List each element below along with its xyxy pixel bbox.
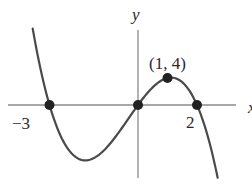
tick-label-neg3: −3 bbox=[12, 114, 30, 133]
root-point-2 bbox=[192, 100, 202, 110]
tick-label-2: 2 bbox=[186, 113, 195, 132]
max-point-1-4 bbox=[163, 73, 173, 83]
cubic-function-graph: y x −3 2 (1, 4) bbox=[0, 0, 252, 194]
root-point-neg3 bbox=[45, 100, 55, 110]
x-axis-label: x bbox=[247, 98, 252, 117]
origin-point bbox=[133, 100, 143, 110]
y-axis-label: y bbox=[130, 5, 140, 24]
point-label-1-4: (1, 4) bbox=[149, 54, 186, 73]
cubic-curve bbox=[33, 28, 218, 177]
